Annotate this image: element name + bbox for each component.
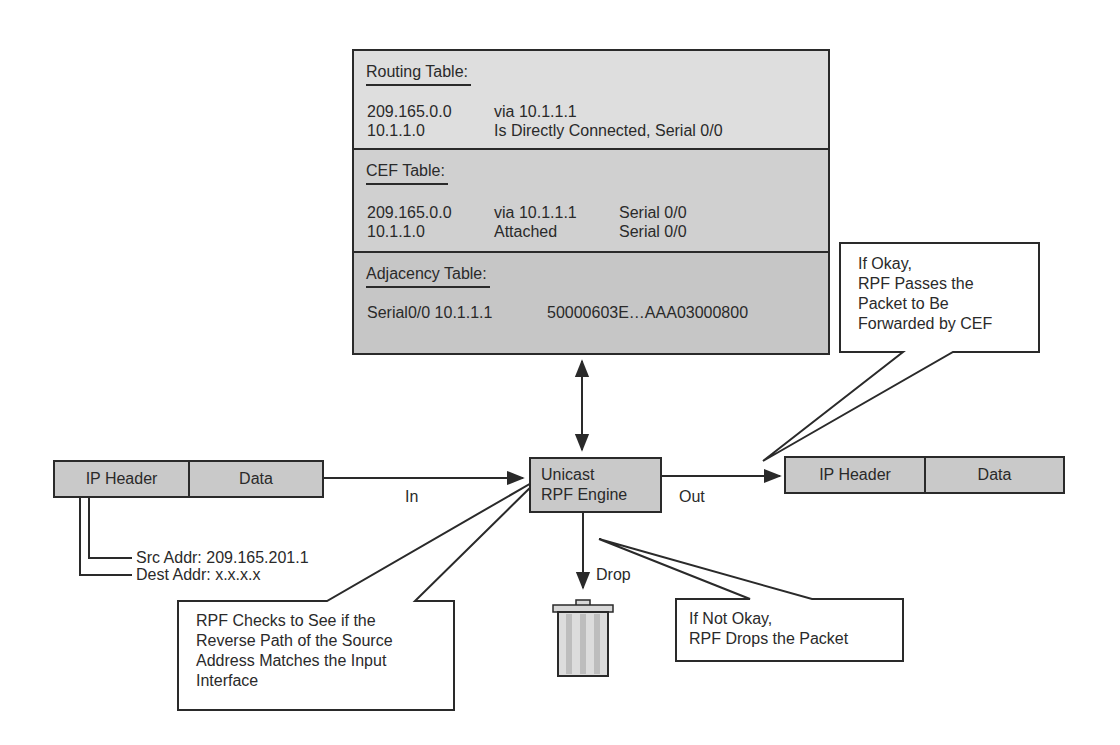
drop-callout: If Not Okay, RPF Drops the Packet <box>689 609 848 649</box>
src-addr-label: Src Addr: 209.165.201.1 <box>136 549 309 567</box>
callout-line: Address Matches the Input <box>196 651 393 671</box>
rewrite: 50000603E…AAA03000800 <box>547 304 748 322</box>
adjacency-table-title: Adjacency Table: <box>366 265 490 288</box>
adjacency-table: Adjacency Table: Serial0/0 10.1.1.1 5000… <box>354 253 828 353</box>
callout-line: If Okay, <box>858 254 992 274</box>
trash-can-icon <box>553 600 613 676</box>
callout-line: Packet to Be <box>858 294 992 314</box>
data: Data <box>190 462 322 496</box>
callout-line: RPF Checks to See if the <box>196 611 393 631</box>
callout-line: RPF Passes the <box>858 274 992 294</box>
engine-line-2: RPF Engine <box>541 485 660 505</box>
callout-line: If Not Okay, <box>689 609 848 629</box>
next-hop: Attached <box>494 223 557 241</box>
interface: Serial 0/0 <box>619 223 687 241</box>
cef-table: CEF Table: 209.165.0.0 via 10.1.1.1 Seri… <box>354 150 828 253</box>
output-packet: IP Header Data <box>784 456 1065 494</box>
callout-line: Reverse Path of the Source <box>196 631 393 651</box>
drop-label: Drop <box>596 566 631 584</box>
interface: Serial 0/0 <box>619 204 687 222</box>
callout-line: Forwarded by CEF <box>858 314 992 334</box>
forwarding-tables: Routing Table: 209.165.0.0 via 10.1.1.1 … <box>352 49 830 355</box>
prefix: 10.1.1.0 <box>367 122 425 140</box>
input-packet: IP Header Data <box>53 460 324 498</box>
next-hop: via 10.1.1.1 <box>494 204 577 222</box>
out-label: Out <box>679 488 705 506</box>
cef-table-title: CEF Table: <box>366 162 448 185</box>
in-label: In <box>405 488 418 506</box>
check-callout: RPF Checks to See if the Reverse Path of… <box>196 611 393 691</box>
interface: Serial0/0 10.1.1.1 <box>367 304 492 322</box>
dest-addr-label: Dest Addr: x.x.x.x <box>136 566 260 584</box>
prefix: 209.165.0.0 <box>367 204 452 222</box>
prefix: 209.165.0.0 <box>367 103 452 121</box>
data: Data <box>926 458 1063 492</box>
callout-line: Interface <box>196 671 393 691</box>
ip-header: IP Header <box>55 462 188 496</box>
unicast-rpf-engine: Unicast RPF Engine <box>529 457 662 513</box>
prefix: 10.1.1.0 <box>367 223 425 241</box>
engine-line-1: Unicast <box>541 465 660 485</box>
next-hop: Is Directly Connected, Serial 0/0 <box>494 122 723 140</box>
pass-callout: If Okay, RPF Passes the Packet to Be For… <box>858 254 992 334</box>
routing-table-title: Routing Table: <box>366 63 471 86</box>
ip-header: IP Header <box>786 458 924 492</box>
dest-leader <box>80 487 132 575</box>
next-hop: via 10.1.1.1 <box>494 103 577 121</box>
routing-table: Routing Table: 209.165.0.0 via 10.1.1.1 … <box>354 51 828 150</box>
callout-line: RPF Drops the Packet <box>689 629 848 649</box>
